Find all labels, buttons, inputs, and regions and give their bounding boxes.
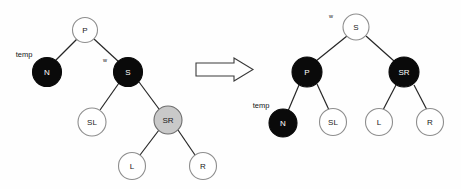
node-S-label: S [125, 68, 130, 77]
edge-P-SL-right [317, 84, 329, 110]
node-P-label: P [82, 26, 87, 35]
node-SR-right-label: SR [398, 68, 409, 77]
right-tree-nodes: S P SR N SL [269, 14, 444, 137]
edge-P-N [55, 39, 77, 61]
node-S-right-label: S [353, 23, 358, 32]
node-R-right-label: R [427, 118, 433, 127]
edge-S-P-right [316, 36, 347, 61]
annotation-temp-right: temp [253, 101, 270, 110]
node-L[interactable]: L [119, 153, 146, 180]
node-L-right-label: L [377, 118, 382, 127]
node-S-right[interactable]: S [343, 14, 369, 40]
node-S[interactable]: S [114, 58, 143, 87]
node-SR-label: SR [162, 116, 173, 125]
transition-arrow [196, 58, 253, 81]
left-tree-nodes: P N S SL SR [33, 18, 217, 180]
edge-S-SL [100, 83, 119, 110]
edge-SR-R-right [414, 85, 427, 110]
edge-SR-L-right [383, 85, 396, 110]
node-P-right-label: P [304, 68, 309, 77]
node-P-right[interactable]: P [292, 57, 322, 87]
node-N[interactable]: N [33, 58, 62, 87]
left-tree-edges [55, 39, 195, 155]
node-N-right-label: N [280, 119, 286, 128]
node-SL-right[interactable]: SL [320, 109, 347, 136]
annotation-w-right: w [328, 13, 333, 19]
node-N-right[interactable]: N [269, 109, 297, 137]
node-R[interactable]: R [190, 153, 217, 180]
node-SL-right-label: SL [328, 118, 338, 127]
right-tree-annotations: w temp [253, 13, 333, 110]
annotation-temp-left: temp [16, 50, 33, 59]
node-SL[interactable]: SL [78, 108, 106, 136]
edge-S-SR-right [366, 36, 394, 61]
annotation-w-left: w [102, 57, 107, 63]
left-tree-group: P N S SL SR [16, 18, 217, 180]
edge-SR-R [178, 130, 195, 155]
edge-P-N-right [288, 85, 299, 111]
tree-diagram-canvas: P N S SL SR [0, 0, 461, 189]
node-SR[interactable]: SR [154, 106, 182, 134]
node-R-right[interactable]: R [417, 109, 444, 136]
node-N-label: N [44, 68, 50, 77]
node-R-label: R [200, 162, 206, 171]
tree-transformation-diagram: P N S SL SR [0, 0, 461, 189]
node-P[interactable]: P [73, 18, 98, 43]
left-tree-annotations: temp w [16, 50, 107, 64]
node-SR-right[interactable]: SR [389, 57, 419, 87]
right-tree-group: S P SR N SL [253, 13, 444, 137]
node-L-label: L [130, 162, 135, 171]
rightwards-block-arrow-icon [196, 58, 253, 81]
node-SL-label: SL [87, 118, 97, 127]
edge-SR-L [140, 130, 159, 155]
edge-S-SR [139, 82, 159, 109]
node-L-right[interactable]: L [366, 109, 393, 136]
